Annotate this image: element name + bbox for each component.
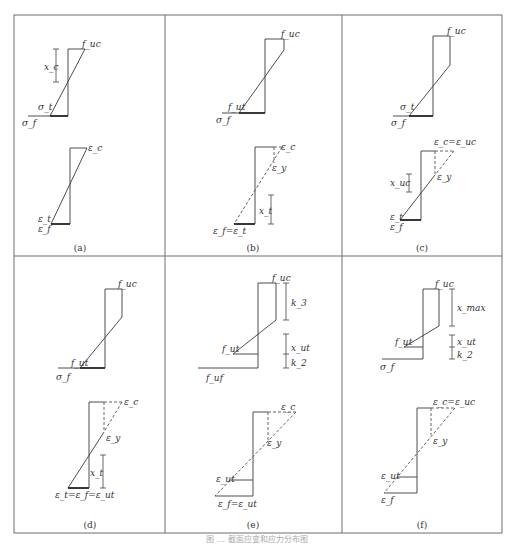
- panel-f: f_uc x_max f_ut x_ut k_2 σ_f ε_c=ε_uc ε_…: [380, 279, 486, 530]
- label-xt: x_t: [259, 206, 273, 217]
- figure-caption: 图 … 截面应变和应力分布图: [206, 534, 307, 544]
- label-sigma-f: σ_f: [56, 372, 72, 383]
- stress-diagram-d: [58, 289, 122, 368]
- strain-diagram-b: [234, 147, 282, 224]
- label-sigma-f: σ_f: [380, 362, 396, 373]
- label-eps-f-eq-ut: ε_f=ε_ut: [218, 499, 257, 510]
- label-eps-f: ε_f: [38, 224, 52, 235]
- label-xut: x_ut: [457, 337, 476, 348]
- panel-b: f_uc f_ut σ_f ε_c ε_y x_t ε_f=ε_t (b): [213, 29, 300, 253]
- panel-e: f_uc k_3 f_ut x_ut k_2 f_uf ε_c ε_y ε_ut…: [198, 273, 310, 530]
- label-xc: x_c: [44, 62, 59, 73]
- label-fut: f_ut: [394, 337, 413, 348]
- panel-label-c: (c): [416, 243, 428, 253]
- label-eps-ut: ε_ut: [381, 471, 400, 482]
- dimension-xut: [283, 334, 289, 354]
- label-xuc: x_uc: [390, 178, 410, 189]
- label-eps-y: ε_y: [272, 163, 287, 174]
- label-eps-c: ε_c: [88, 143, 102, 154]
- label-fuc: f_uc: [280, 29, 300, 40]
- stress-diagram-f: [382, 289, 455, 359]
- label-fuf: f_uf: [205, 373, 225, 384]
- panel-d: f_uc f_ut σ_f ε_c ε_y x_t ε_t=ε_f=ε_ut (…: [55, 279, 138, 530]
- panel-label-b: (b): [247, 243, 260, 253]
- label-fuc: f_uc: [81, 39, 101, 50]
- label-xut: x_ut: [291, 343, 310, 354]
- label-sigma-f: σ_f: [216, 115, 232, 126]
- label-eps-f: ε_f: [381, 495, 395, 506]
- label-eps-f-eq-t: ε_f=ε_t: [213, 226, 247, 237]
- dimension-k3: [283, 283, 289, 320]
- label-fut: f_ut: [227, 102, 246, 113]
- label-fut: f_ut: [70, 358, 89, 369]
- label-eps-c-uc: ε_c=ε_uc: [433, 397, 475, 408]
- label-k2: k_2: [457, 350, 473, 361]
- label-eps-ut: ε_ut: [216, 474, 235, 485]
- label-eps-c: ε_c: [281, 402, 295, 413]
- label-eps-t-f-ut: ε_t=ε_f=ε_ut: [55, 490, 115, 501]
- label-fuc: f_uc: [117, 279, 137, 290]
- label-fut: f_ut: [221, 344, 240, 355]
- label-sigma-f: σ_f: [391, 118, 407, 129]
- label-k2: k_2: [291, 358, 307, 369]
- dimension-k2: [283, 354, 289, 368]
- label-eps-y: ε_y: [433, 436, 448, 447]
- dimension-xmax: [449, 289, 455, 326]
- label-sigma-f: σ_f: [22, 118, 38, 129]
- label-fuc: f_uc: [434, 279, 454, 290]
- stress-strain-diagram: f_uc x_c σ_t σ_f ε_c ε_t ε_f (a) f_uc f_…: [0, 0, 514, 544]
- label-eps-c: ε_c: [124, 397, 138, 408]
- label-eps-c-uc: ε_c=ε_uc: [434, 137, 476, 148]
- label-sigma-t: σ_t: [38, 102, 53, 113]
- label-eps-f: ε_f: [390, 222, 404, 233]
- panel-a: f_uc x_c σ_t σ_f ε_c ε_t ε_f (a): [22, 39, 102, 253]
- dimension-xut: [449, 335, 455, 347]
- panel-label-a: (a): [74, 243, 86, 253]
- panel-c: f_uc σ_t σ_f ε_c=ε_uc ε_y x_uc ε_t ε_f (…: [390, 26, 476, 253]
- stress-diagram-e: [198, 283, 289, 368]
- label-fuc: f_uc: [271, 273, 291, 284]
- panel-label-e: (e): [247, 520, 259, 530]
- label-eps-y: ε_y: [437, 172, 452, 183]
- label-k3: k_3: [291, 298, 307, 309]
- label-xmax: x_max: [457, 303, 486, 314]
- label-eps-y: ε_y: [267, 438, 282, 449]
- label-sigma-t: σ_t: [400, 102, 415, 113]
- strain-diagram-a: [51, 148, 87, 224]
- label-fuc: f_uc: [446, 26, 466, 37]
- panel-label-f: (f): [417, 520, 427, 530]
- label-eps-c: ε_c: [281, 142, 295, 153]
- label-eps-y: ε_y: [106, 433, 121, 444]
- panel-label-d: (d): [84, 520, 97, 530]
- label-xt: x_t: [90, 468, 104, 479]
- stress-diagram-a: [28, 49, 85, 116]
- panel-grid-frame: [14, 15, 502, 533]
- dimension-k2: [449, 347, 455, 359]
